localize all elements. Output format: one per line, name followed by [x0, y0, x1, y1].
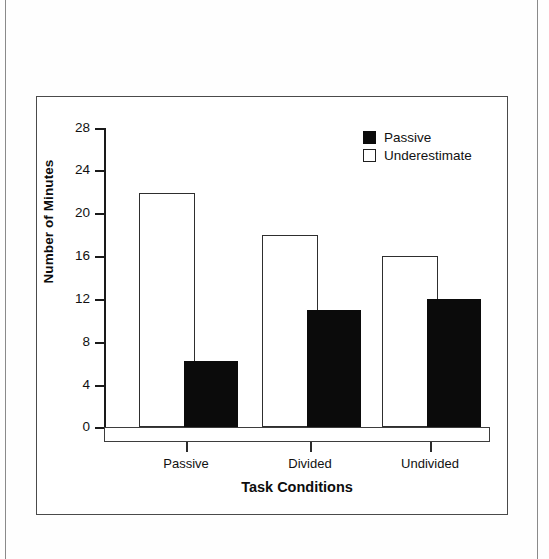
- y-tick-label: 20: [60, 206, 90, 220]
- legend-item-underestimate: Underestimate: [363, 149, 472, 163]
- x-tick-label-undivided: Undivided: [401, 456, 459, 471]
- x-tick-label-divided: Divided: [288, 456, 331, 471]
- legend-item-passive: Passive: [363, 131, 472, 145]
- x-tick-divided: [310, 442, 312, 452]
- bar-passive-undivided: [427, 299, 481, 427]
- x-tick-passive: [186, 442, 188, 452]
- x-tick-undivided: [430, 442, 432, 452]
- y-tick-label: 4: [60, 378, 90, 392]
- y-tick-label: 16: [60, 249, 90, 263]
- x-tick-label-passive: Passive: [163, 456, 209, 471]
- x-axis-band: [104, 427, 490, 442]
- scanned-page: 28 24 20 16 12 8 4 0 Number o: [0, 0, 549, 559]
- y-tick-label: 28: [60, 121, 90, 135]
- y-axis-title: Number of Minutes: [41, 157, 56, 287]
- y-tick-label: 0: [60, 420, 90, 434]
- legend-label: Passive: [384, 131, 431, 145]
- y-tick-label: 12: [60, 292, 90, 306]
- bar-passive-passive: [184, 361, 238, 427]
- bar-passive-divided: [307, 310, 361, 427]
- chart-legend: Passive Underestimate: [363, 131, 472, 166]
- legend-swatch-filled-icon: [363, 131, 376, 144]
- legend-label: Underestimate: [384, 149, 472, 163]
- legend-swatch-open-icon: [363, 149, 376, 162]
- y-tick-label: 8: [60, 335, 90, 349]
- bar-chart: 28 24 20 16 12 8 4 0 Number o: [0, 0, 549, 559]
- x-axis-title: Task Conditions: [104, 479, 490, 495]
- y-tick-label: 24: [60, 163, 90, 177]
- y-axis-line: [104, 128, 106, 428]
